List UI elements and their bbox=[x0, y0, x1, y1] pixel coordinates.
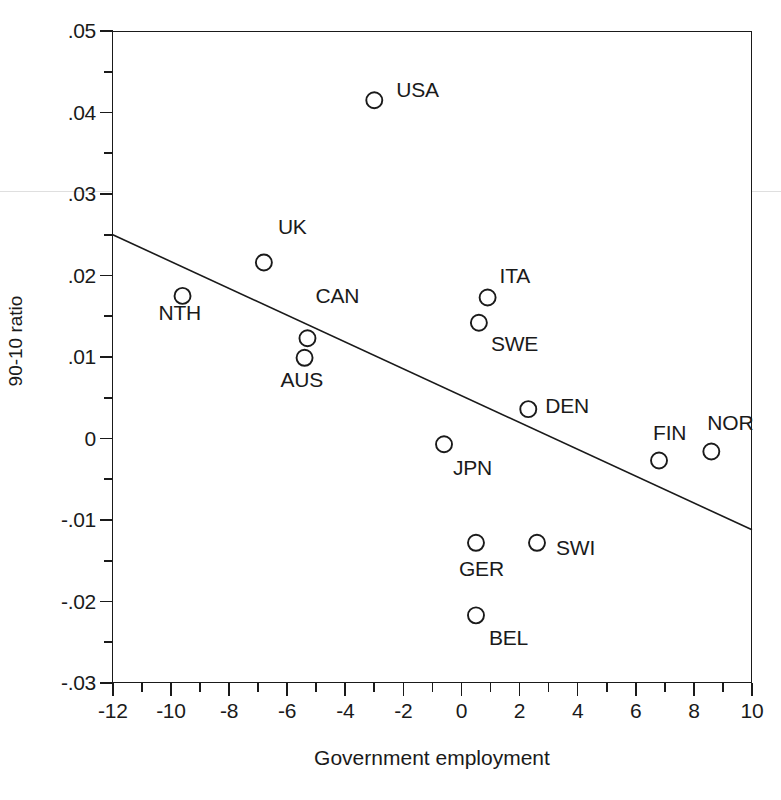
y-tick-major bbox=[100, 30, 113, 32]
x-tick-minor bbox=[257, 683, 259, 692]
data-point-label-nor: NOR bbox=[707, 412, 753, 433]
x-tick-major bbox=[403, 683, 405, 696]
data-point-label-ger: GER bbox=[459, 558, 504, 579]
x-tick-minor bbox=[606, 683, 608, 692]
y-tick-major bbox=[100, 438, 113, 440]
x-tick-major bbox=[461, 683, 463, 696]
x-tick-major bbox=[344, 683, 346, 696]
scatter-plot-figure: .05.04.03.02.010-.01-.02-.03-12-10-8-6-4… bbox=[0, 0, 781, 800]
x-tick-minor bbox=[490, 683, 492, 692]
data-point-label-fin: FIN bbox=[653, 422, 686, 443]
y-tick-major bbox=[100, 601, 113, 603]
x-tick-major bbox=[693, 683, 695, 696]
y-tick-major bbox=[100, 193, 113, 195]
y-tick-label: 0 bbox=[0, 428, 96, 449]
x-tick-label: -4 bbox=[315, 700, 375, 721]
y-tick-major bbox=[100, 112, 113, 114]
x-tick-major bbox=[286, 683, 288, 696]
data-point-label-usa: USA bbox=[396, 79, 439, 100]
x-tick-label: -8 bbox=[199, 700, 259, 721]
x-tick-minor bbox=[722, 683, 724, 692]
x-tick-label: -2 bbox=[373, 700, 433, 721]
x-tick-major bbox=[170, 683, 172, 696]
x-tick-major bbox=[228, 683, 230, 696]
x-tick-label: -6 bbox=[257, 700, 317, 721]
y-tick-minor bbox=[104, 641, 113, 643]
x-tick-label: 4 bbox=[548, 700, 608, 721]
y-tick-label: .03 bbox=[0, 183, 96, 204]
y-tick-label: -.01 bbox=[0, 509, 96, 530]
data-point-label-swi: SWI bbox=[556, 537, 595, 558]
y-tick-label: -.02 bbox=[0, 591, 96, 612]
x-tick-minor bbox=[548, 683, 550, 692]
x-tick-minor bbox=[664, 683, 666, 692]
x-tick-minor bbox=[432, 683, 434, 692]
y-tick-minor bbox=[104, 560, 113, 562]
data-point-label-uk: UK bbox=[278, 216, 307, 237]
plot-frame bbox=[112, 31, 752, 683]
x-tick-minor bbox=[141, 683, 143, 692]
x-tick-major bbox=[635, 683, 637, 696]
x-tick-major bbox=[519, 683, 521, 696]
x-tick-label: 6 bbox=[606, 700, 666, 721]
y-tick-label: -.03 bbox=[0, 672, 96, 693]
y-axis-title: 90-10 ratio bbox=[5, 261, 27, 421]
y-tick-minor bbox=[104, 315, 113, 317]
y-tick-minor bbox=[104, 478, 113, 480]
y-tick-minor bbox=[104, 71, 113, 73]
x-tick-label: -12 bbox=[83, 700, 143, 721]
x-tick-major bbox=[751, 683, 753, 696]
data-point-label-aus: AUS bbox=[281, 369, 324, 390]
x-tick-label: 0 bbox=[431, 700, 491, 721]
y-tick-label: .05 bbox=[0, 20, 96, 41]
y-tick-minor bbox=[104, 397, 113, 399]
data-point-label-swe: SWE bbox=[491, 333, 538, 354]
data-point-label-bel: BEL bbox=[489, 627, 528, 648]
data-point-label-nth: NTH bbox=[159, 302, 202, 323]
x-tick-minor bbox=[315, 683, 317, 692]
y-tick-minor bbox=[104, 234, 113, 236]
data-point-label-can: CAN bbox=[315, 285, 359, 306]
data-point-label-ita: ITA bbox=[500, 265, 531, 286]
data-point-label-den: DEN bbox=[545, 395, 589, 416]
x-tick-label: -10 bbox=[141, 700, 201, 721]
y-tick-major bbox=[100, 356, 113, 358]
y-tick-major bbox=[100, 519, 113, 521]
x-tick-major bbox=[112, 683, 114, 696]
x-tick-label: 2 bbox=[490, 700, 550, 721]
x-tick-major bbox=[577, 683, 579, 696]
x-tick-minor bbox=[373, 683, 375, 692]
x-axis-title: Government employment bbox=[112, 746, 752, 770]
y-tick-minor bbox=[104, 152, 113, 154]
x-tick-minor bbox=[199, 683, 201, 692]
x-tick-label: 8 bbox=[664, 700, 724, 721]
y-tick-label: .04 bbox=[0, 102, 96, 123]
data-point-label-jpn: JPN bbox=[453, 457, 492, 478]
y-tick-major bbox=[100, 275, 113, 277]
x-tick-label: 10 bbox=[722, 700, 781, 721]
